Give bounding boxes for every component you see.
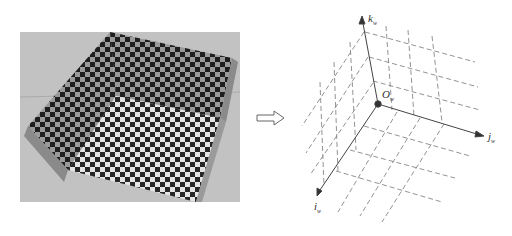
world-coordinate-diagram: kw jw iw Ow	[280, 0, 512, 236]
checkerboard-photo	[20, 32, 240, 202]
i-axis-arrowhead	[317, 188, 322, 196]
i-axis-label: iw	[314, 200, 321, 214]
k-axis-arrowhead	[359, 16, 365, 24]
k-axis-label: kw	[368, 12, 377, 26]
grid-lines	[302, 26, 480, 222]
i-axis	[318, 104, 378, 193]
k-axis	[362, 18, 378, 104]
j-axis-label: jw	[488, 130, 495, 144]
origin-label: Ow	[382, 88, 394, 102]
origin-point	[375, 101, 381, 107]
j-axis	[378, 104, 480, 135]
j-axis-arrowhead	[475, 131, 484, 137]
